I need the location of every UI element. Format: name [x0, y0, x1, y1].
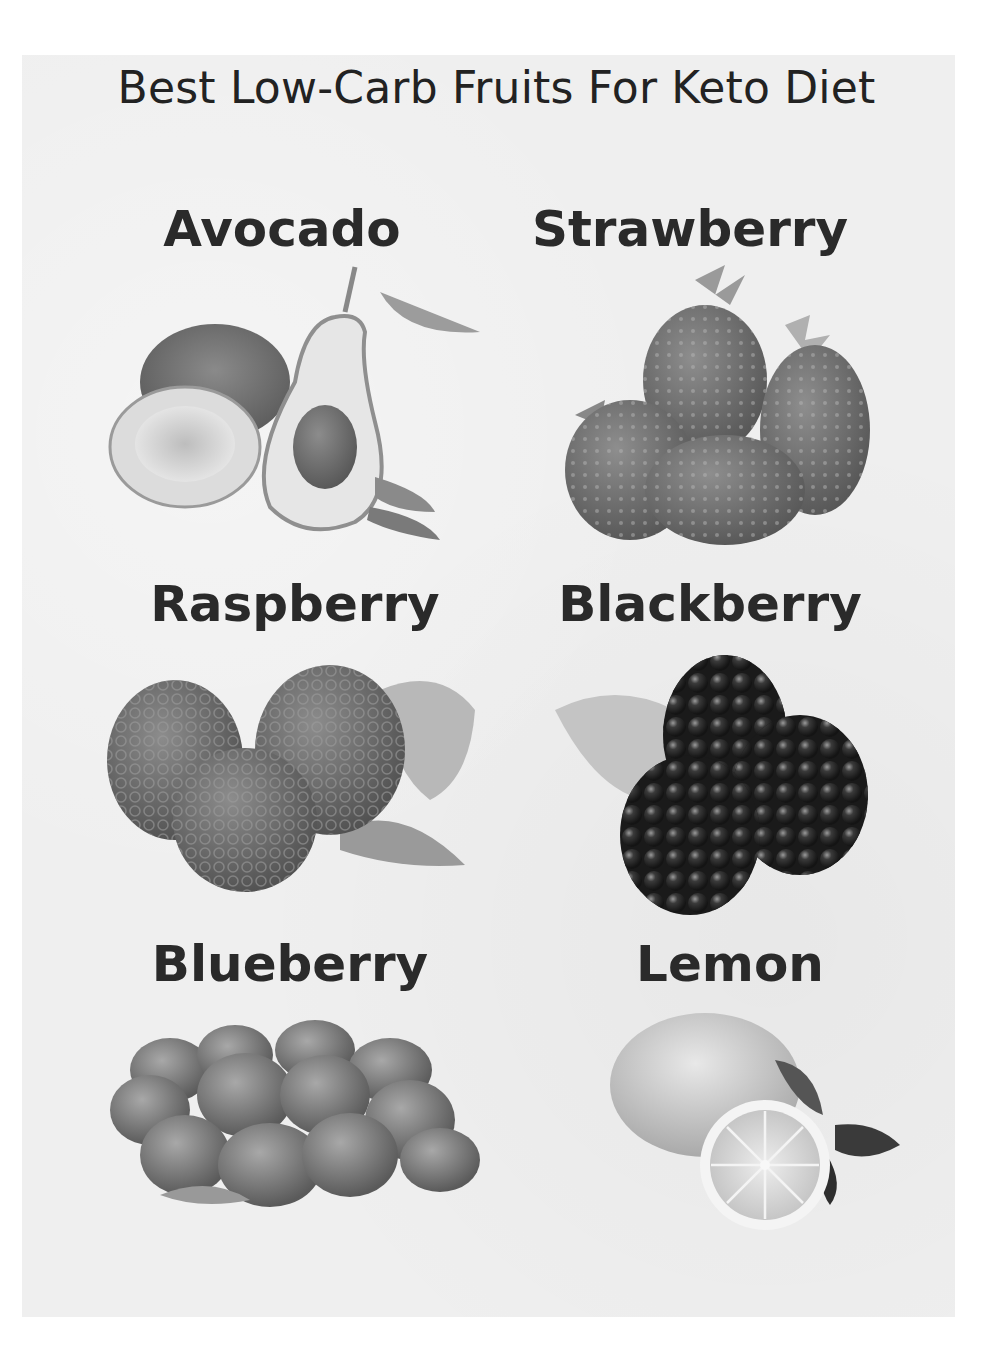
page-title: Best Low-Carb Fruits For Keto Diet: [0, 62, 993, 113]
raspberry-icon: [100, 650, 480, 900]
fruit-label-strawberry: Strawberry: [480, 200, 900, 258]
fruit-label-lemon: Lemon: [520, 935, 940, 993]
lemon-icon: [605, 1005, 905, 1235]
avocado-icon: [105, 262, 485, 542]
fruit-label-blackberry: Blackberry: [500, 575, 920, 633]
fruit-label-raspberry: Raspberry: [85, 575, 505, 633]
blackberry-icon: [555, 650, 875, 920]
fruit-label-blueberry: Blueberry: [80, 935, 500, 993]
strawberry-icon: [555, 265, 875, 545]
fruit-label-avocado: Avocado: [72, 200, 492, 258]
blueberry-icon: [110, 1010, 490, 1210]
